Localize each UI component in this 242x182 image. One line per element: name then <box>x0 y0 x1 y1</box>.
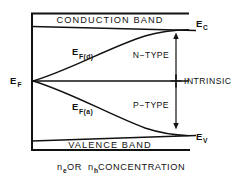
fermi-level-axis-label-group: E F <box>10 75 22 88</box>
acceptor-curve-subscript: F(a) <box>79 108 93 116</box>
donor-curve-label-group: E F(d) <box>72 46 93 61</box>
doping-range-arrow <box>171 33 182 130</box>
n-type-region-label: N−TYPE <box>133 50 170 60</box>
p-type-region-label: P−TYPE <box>133 100 169 110</box>
plot-frame <box>31 13 190 151</box>
valence-band-label: VALENCE BAND <box>68 140 152 150</box>
fermi-level-axis-subscript: F <box>18 81 22 88</box>
conduction-band-edge-line <box>32 27 196 31</box>
acceptor-curve-label: E <box>72 101 79 112</box>
band-diagram-canvas: CONDUCTION BAND VALENCE BAND E C E V E F… <box>0 0 242 182</box>
conduction-edge-label: E <box>196 18 203 29</box>
valence-edge-label-group: E V <box>196 131 208 144</box>
valence-edge-label: E <box>196 131 203 142</box>
conduction-edge-subscript: C <box>203 24 208 31</box>
donor-curve-subscript: F(d) <box>79 53 93 61</box>
fermi-level-axis-label: E <box>10 75 17 86</box>
donor-curve-label: E <box>72 46 79 57</box>
valence-edge-subscript: V <box>203 137 208 144</box>
x-axis-label-nh: n <box>88 162 94 172</box>
x-axis-label-or: OR <box>67 162 82 172</box>
x-axis-label-concentration: CONCENTRATION <box>98 162 185 172</box>
x-axis-label-group: n e OR n h CONCENTRATION <box>57 162 185 174</box>
band-diagram-figure: CONDUCTION BAND VALENCE BAND E C E V E F… <box>0 0 242 182</box>
x-axis-label-ne: n <box>57 162 63 172</box>
conduction-edge-label-group: E C <box>196 18 208 31</box>
conduction-band-label: CONDUCTION BAND <box>57 15 164 25</box>
intrinsic-region-label: INTRINSIC <box>184 76 231 86</box>
